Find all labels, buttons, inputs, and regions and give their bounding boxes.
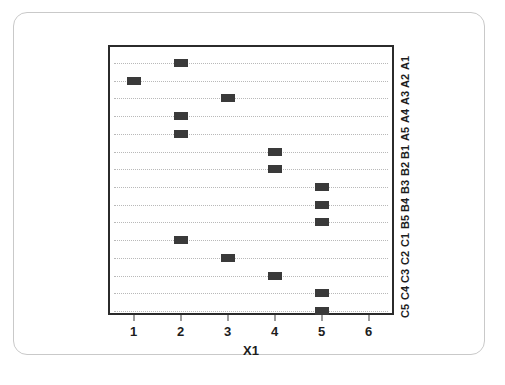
- x-axis-tick-label: 2: [177, 324, 184, 339]
- gridline: [114, 98, 388, 99]
- data-point-marker: [174, 236, 188, 244]
- x-axis-tick: [133, 315, 134, 321]
- gridline: [114, 152, 388, 153]
- gridline: [114, 311, 388, 312]
- data-point-marker: [221, 94, 235, 102]
- x-axis-tick: [321, 315, 322, 321]
- x-axis-tick-label: 5: [318, 324, 325, 339]
- x-axis-tick: [274, 315, 275, 321]
- x-axis-tick: [368, 315, 369, 321]
- data-point-marker: [174, 112, 188, 120]
- data-point-marker: [315, 201, 329, 209]
- gridline: [114, 63, 388, 64]
- x-axis-tick-label: 4: [271, 324, 278, 339]
- data-point-marker: [174, 130, 188, 138]
- plot-frame: [108, 45, 394, 315]
- data-point-marker: [268, 272, 282, 280]
- data-point-marker: [315, 183, 329, 191]
- gridline: [114, 293, 388, 294]
- data-point-marker: [174, 59, 188, 67]
- gridline: [114, 134, 388, 135]
- x-axis-tick: [180, 315, 181, 321]
- x-axis-tick-label: 1: [130, 324, 137, 339]
- gridline: [114, 205, 388, 206]
- x-axis: 123456: [108, 315, 394, 345]
- x-axis-tick: [227, 315, 228, 321]
- x-axis-tick-label: 6: [365, 324, 372, 339]
- data-point-marker: [127, 77, 141, 85]
- gridline: [114, 276, 388, 277]
- gridline: [114, 169, 388, 170]
- data-point-marker: [268, 148, 282, 156]
- data-point-marker: [315, 307, 329, 315]
- gridline: [114, 187, 388, 188]
- x-axis-tick-label: 3: [224, 324, 231, 339]
- plot-surface: [110, 47, 392, 313]
- x-axis-title: X1: [108, 343, 394, 358]
- gridline: [114, 258, 388, 259]
- gridline: [114, 240, 388, 241]
- gridline: [114, 81, 388, 82]
- figure-container: 123456 X1 A1A2A3A4A5B1B2B3B4B5C1C2C3C4C5: [13, 12, 485, 355]
- gridline: [114, 222, 388, 223]
- data-point-marker: [268, 165, 282, 173]
- data-point-marker: [221, 254, 235, 262]
- data-point-marker: [315, 289, 329, 297]
- data-point-marker: [315, 218, 329, 226]
- gridline: [114, 116, 388, 117]
- category-label-c5: C5: [396, 300, 414, 322]
- category-axis-labels: A1A2A3A4A5B1B2B3B4B5C1C2C3C4C5: [394, 45, 416, 315]
